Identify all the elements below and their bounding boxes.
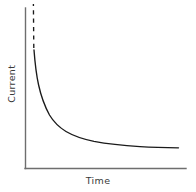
- plot-area: [0, 0, 196, 192]
- x-axis-label: Time: [0, 176, 196, 186]
- y-axis-label-container: Current: [0, 0, 24, 168]
- current-vs-time-chart: Current Time: [0, 0, 196, 192]
- y-axis-label: Current: [7, 65, 17, 103]
- current-decay-curve: [34, 50, 179, 148]
